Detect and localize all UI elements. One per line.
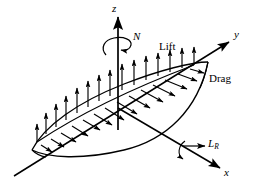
x-axis-line [118,108,220,168]
rotation-arrow-n [103,37,131,55]
rolling-force-label: LR [208,138,219,149]
drag-label: Drag [209,73,231,84]
axis-label-y: y [234,29,239,40]
moment-label-n: N [133,31,140,42]
lift-baseline [37,65,194,142]
diagram-canvas [0,0,254,196]
y-axis-line [14,42,229,176]
lift-label: Lift [159,41,176,52]
rolling-force-subscript: R [214,142,219,151]
axis-label-x: x [224,167,229,178]
axis-label-z: z [112,3,116,14]
aerodynamics-diagram: z y x N Lift Drag LR [0,0,254,196]
axis-lines [14,17,229,176]
